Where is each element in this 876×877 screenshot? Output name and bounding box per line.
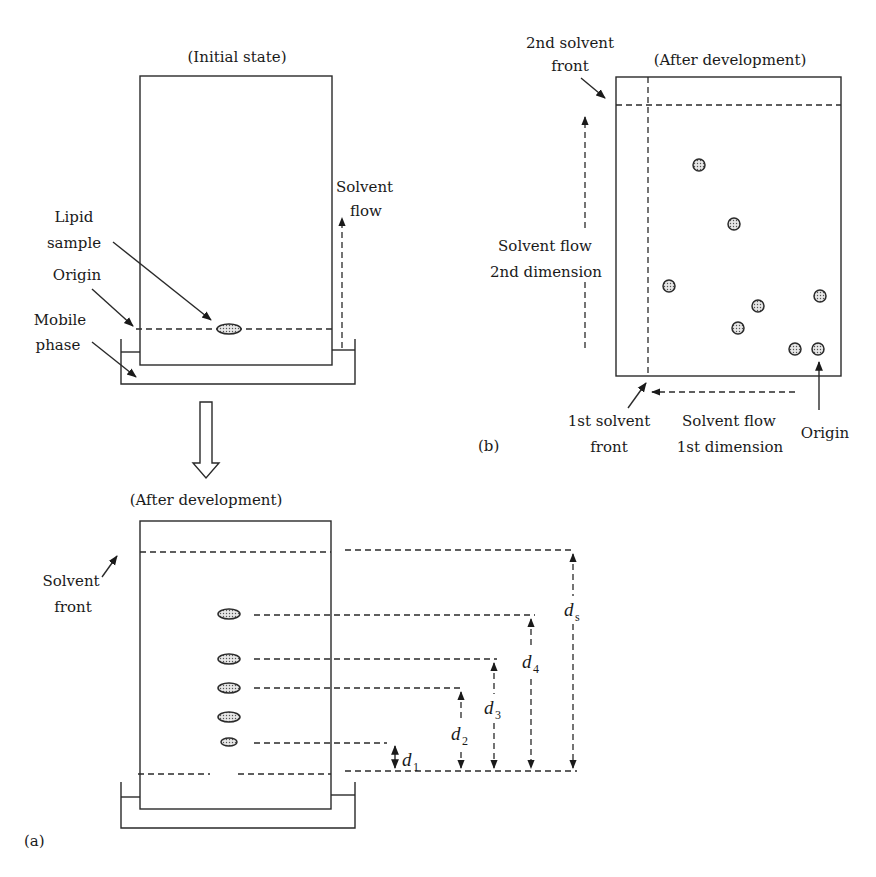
origin-label: Origin	[53, 266, 102, 284]
ds-symbol: d	[564, 599, 574, 620]
lipid-sample-arrow	[113, 242, 211, 320]
second-front-label-1: 2nd solvent	[526, 34, 614, 52]
origin-2d-label: Origin	[801, 424, 850, 442]
tlc-plate-initial	[140, 76, 332, 365]
d1-symbol: d	[402, 749, 412, 770]
panel-b-title: (After development)	[654, 51, 807, 69]
lipid-sample-label-1: Lipid	[55, 208, 94, 226]
distance-ds: d s	[562, 554, 586, 768]
d2-symbol: d	[451, 723, 461, 744]
developing-tank-developed	[121, 782, 355, 828]
second-front-arrow	[581, 78, 605, 98]
solvent-front-arrow	[102, 556, 117, 577]
flow-2nd-label-1: Solvent flow	[498, 237, 592, 255]
spot-3	[218, 654, 240, 664]
tlc-plate-developed	[140, 521, 331, 809]
spot-2d	[789, 343, 801, 355]
d3-subscript: 3	[495, 708, 501, 722]
ds-subscript: s	[575, 610, 580, 624]
spot-2	[218, 683, 240, 693]
second-front-label-2: front	[551, 57, 588, 75]
flow-1st-label-1: Solvent flow	[682, 412, 776, 430]
d4-symbol: d	[522, 651, 532, 672]
first-front-arrow	[628, 383, 646, 408]
spot-2d	[814, 290, 826, 302]
first-front-label-1: 1st solvent	[568, 412, 651, 430]
distance-d2: d 2	[450, 692, 474, 768]
spot-4	[218, 609, 240, 619]
development-transition-arrow	[193, 402, 219, 478]
developing-tank-initial	[121, 339, 355, 384]
distance-d1: d 1	[395, 746, 419, 774]
origin-arrow	[92, 289, 133, 326]
mobile-phase-label-1: Mobile	[34, 311, 87, 329]
panel-b-label: (b)	[478, 437, 499, 455]
spot-2d	[752, 300, 764, 312]
solvent-front-label-1: Solvent	[42, 572, 99, 590]
solvent-flow-label-2: flow	[350, 202, 382, 220]
panel-a-label: (a)	[24, 832, 45, 850]
developed-panel-a: (After development) Solvent front d 1	[24, 491, 586, 850]
developed-title-a: (After development)	[130, 491, 283, 509]
distance-d3: d 3	[483, 663, 507, 768]
d4-subscript: 4	[533, 662, 539, 676]
mobile-phase-label-2: phase	[36, 336, 81, 354]
d2-subscript: 2	[462, 734, 468, 748]
lipid-sample-spot	[217, 324, 241, 334]
spot-2d	[732, 322, 744, 334]
spot-2d	[663, 280, 675, 292]
panel-b: (After development) 2nd solvent front So…	[478, 34, 850, 456]
distance-d4: d 4	[520, 619, 544, 768]
flow-2nd-label-2: 2nd dimension	[490, 263, 602, 281]
mobile-phase-arrow	[92, 342, 136, 377]
spot-1	[221, 738, 237, 746]
tlc-diagram: (Initial state) Solvent flow Lipid sampl…	[0, 0, 876, 877]
spot-unmeasured	[218, 712, 240, 722]
initial-state-panel: (Initial state) Solvent flow Lipid sampl…	[34, 48, 393, 384]
d3-symbol: d	[484, 697, 494, 718]
solvent-front-label-2: front	[54, 598, 91, 616]
spot-2d	[693, 159, 705, 171]
lipid-sample-label-2: sample	[47, 234, 101, 252]
spot-2d-origin	[812, 343, 824, 355]
initial-state-title: (Initial state)	[188, 48, 287, 66]
d1-subscript: 1	[413, 760, 419, 774]
flow-1st-label-2: 1st dimension	[677, 438, 784, 456]
first-front-label-2: front	[590, 438, 627, 456]
spot-2d	[728, 218, 740, 230]
solvent-flow-label-1: Solvent	[336, 178, 393, 196]
